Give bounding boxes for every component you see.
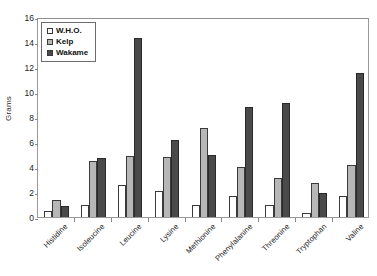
bar (311, 183, 319, 217)
legend-item: Wakame (47, 49, 88, 57)
x-axis-tick-labels: HistidineIsoleucineLeucineLysineMethioni… (37, 222, 369, 276)
y-axis-title: Grams (4, 79, 13, 139)
bar (118, 185, 126, 218)
bar (282, 103, 290, 217)
bar (339, 196, 347, 217)
y-tick-mark (35, 194, 38, 195)
bar (356, 73, 364, 217)
y-tick-label: 14 (14, 39, 34, 48)
legend-item: W.H.O. (47, 27, 88, 35)
bar (347, 165, 355, 218)
bar (265, 205, 273, 218)
legend: W.H.O.KelpWakame (41, 22, 96, 62)
y-tick-label: 6 (14, 139, 34, 148)
bar (163, 157, 171, 217)
bar-group (333, 19, 370, 217)
bar (44, 211, 52, 217)
x-tick-label: Leucine (118, 222, 144, 248)
bar-group (222, 19, 259, 217)
y-tick-mark (35, 94, 38, 95)
bar (245, 107, 253, 217)
bar (200, 128, 208, 217)
bar (302, 213, 310, 217)
bar (229, 196, 237, 217)
y-tick-mark (35, 144, 38, 145)
y-tick-mark (35, 19, 38, 20)
y-tick-mark (35, 44, 38, 45)
y-tick-label: 0 (14, 214, 34, 223)
bar (81, 205, 89, 218)
bar-group (296, 19, 333, 217)
legend-swatch-icon (47, 39, 53, 45)
legend-label: W.H.O. (56, 27, 82, 35)
legend-label: Wakame (56, 49, 88, 57)
y-tick-mark (35, 169, 38, 170)
legend-swatch-icon (47, 28, 53, 34)
bar (126, 156, 134, 217)
bar-group (186, 19, 223, 217)
bar (208, 155, 216, 218)
legend-label: Kelp (56, 38, 73, 46)
y-tick-label: 4 (14, 164, 34, 173)
x-tick-label: Phenylalanine (213, 222, 254, 263)
y-tick-label: 16 (14, 14, 34, 23)
y-tick-label: 10 (14, 89, 34, 98)
bar (89, 161, 97, 217)
y-tick-mark (35, 69, 38, 70)
x-tick-label: Histidine (42, 222, 70, 250)
x-tick-label: Threonine (260, 222, 291, 253)
bar (61, 206, 69, 217)
y-axis-tick-labels: 0246810121416 (14, 18, 34, 218)
legend-swatch-icon (47, 50, 53, 56)
bar-group (149, 19, 186, 217)
y-tick-label: 12 (14, 64, 34, 73)
bar (97, 158, 105, 217)
x-tick-label: Methionine (184, 222, 217, 255)
x-tick-label: Valine (344, 222, 365, 243)
y-tick-mark (35, 119, 38, 120)
x-tick-label: Tryptophan (294, 222, 328, 256)
bar (192, 205, 200, 218)
bar (319, 193, 327, 217)
bar-group (259, 19, 296, 217)
bar (237, 167, 245, 217)
bar (134, 38, 142, 217)
x-tick-label: Lysine (158, 222, 180, 244)
bar-chart: Grams 0246810121416 HistidineIsoleucineL… (0, 0, 377, 276)
x-tick-label: Isoleucine (75, 222, 106, 253)
bar (274, 178, 282, 217)
bar (155, 191, 163, 217)
bar-group (112, 19, 149, 217)
bar (171, 140, 179, 218)
legend-item: Kelp (47, 38, 88, 46)
y-tick-label: 8 (14, 114, 34, 123)
y-tick-label: 2 (14, 189, 34, 198)
bar (52, 200, 60, 218)
